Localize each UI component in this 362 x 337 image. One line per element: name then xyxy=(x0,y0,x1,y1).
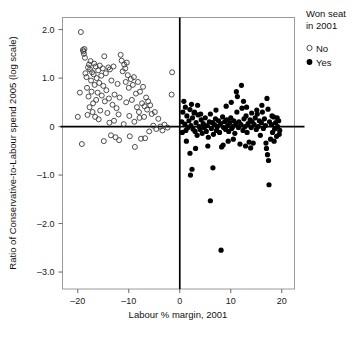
data-point xyxy=(195,133,200,138)
x-axis-title: Labour % margin, 2001 xyxy=(129,309,228,320)
data-point xyxy=(232,131,237,136)
data-point xyxy=(258,133,263,138)
data-point xyxy=(192,109,197,114)
data-point xyxy=(218,248,223,253)
data-point xyxy=(254,108,259,113)
y-tick-label: –1.0 xyxy=(37,170,55,180)
data-point xyxy=(205,143,210,148)
x-tick-label: 0 xyxy=(177,296,182,306)
plot-canvas: –20–1001020 2.01.00–1.0–2.0–3.0 Labour %… xyxy=(0,0,362,337)
data-point xyxy=(235,94,240,99)
data-point xyxy=(243,143,248,148)
data-point xyxy=(184,139,189,144)
y-tick-label: –3.0 xyxy=(37,267,55,277)
legend-title-line1: Won seat xyxy=(306,8,346,19)
y-tick-label: 1.0 xyxy=(42,73,55,83)
x-tick-label: 10 xyxy=(226,296,236,306)
data-point xyxy=(248,145,253,150)
data-point xyxy=(210,165,215,170)
data-point xyxy=(187,107,192,112)
data-point xyxy=(265,107,270,112)
data-point xyxy=(251,140,256,145)
data-point xyxy=(180,109,185,114)
data-point xyxy=(264,146,269,151)
legend-label-no[interactable]: No xyxy=(316,43,328,54)
data-point xyxy=(266,158,271,163)
data-point xyxy=(183,105,188,110)
data-point xyxy=(249,110,254,115)
data-point xyxy=(264,96,269,101)
x-tick-label: 20 xyxy=(277,296,287,306)
data-point xyxy=(259,103,264,108)
legend-label-yes[interactable]: Yes xyxy=(316,57,332,68)
data-point xyxy=(208,198,213,203)
data-point xyxy=(237,141,242,146)
legend-marker-yes-icon xyxy=(307,59,313,65)
data-point xyxy=(234,109,239,114)
x-tick-label: –10 xyxy=(121,296,136,306)
data-point xyxy=(262,116,267,121)
data-point xyxy=(260,109,265,114)
data-point xyxy=(243,113,248,118)
data-point xyxy=(181,99,186,104)
data-point xyxy=(204,129,209,134)
data-point xyxy=(239,106,244,111)
data-point xyxy=(188,172,193,177)
data-point xyxy=(239,83,244,88)
data-point xyxy=(266,182,271,187)
y-tick-label: 2.0 xyxy=(42,25,55,35)
legend-title-line2: in 2001 xyxy=(306,20,337,31)
data-point xyxy=(265,152,270,157)
data-point xyxy=(187,151,192,156)
data-point xyxy=(244,130,249,135)
data-point xyxy=(206,135,211,140)
data-point xyxy=(231,137,236,142)
data-point xyxy=(189,167,194,172)
data-point xyxy=(277,132,282,137)
figure-background xyxy=(0,0,362,337)
data-point xyxy=(241,99,246,104)
data-point xyxy=(263,123,268,128)
data-point xyxy=(234,89,239,94)
data-point xyxy=(217,130,222,135)
data-point xyxy=(189,102,194,107)
data-point xyxy=(198,111,203,116)
y-tick-label: 0 xyxy=(49,122,54,132)
data-point xyxy=(221,142,226,147)
y-axis-title: Ratio of Conservative-to-Labour spend 20… xyxy=(7,36,18,269)
data-point xyxy=(190,115,195,120)
data-point xyxy=(226,139,231,144)
data-point xyxy=(269,113,274,118)
data-point xyxy=(229,100,234,105)
data-point xyxy=(272,139,277,144)
data-point xyxy=(184,113,189,118)
data-point xyxy=(208,111,213,116)
data-point xyxy=(224,104,229,109)
data-point xyxy=(195,103,200,108)
data-point xyxy=(213,108,218,113)
data-point xyxy=(244,105,249,110)
scatter-plot-figure: –20–1001020 2.01.00–1.0–2.0–3.0 Labour %… xyxy=(0,0,362,337)
data-point xyxy=(193,146,198,151)
data-point xyxy=(263,140,268,145)
x-tick-label: –20 xyxy=(70,296,85,306)
data-point xyxy=(275,115,280,120)
data-point xyxy=(203,115,208,120)
y-tick-label: –2.0 xyxy=(37,219,55,229)
